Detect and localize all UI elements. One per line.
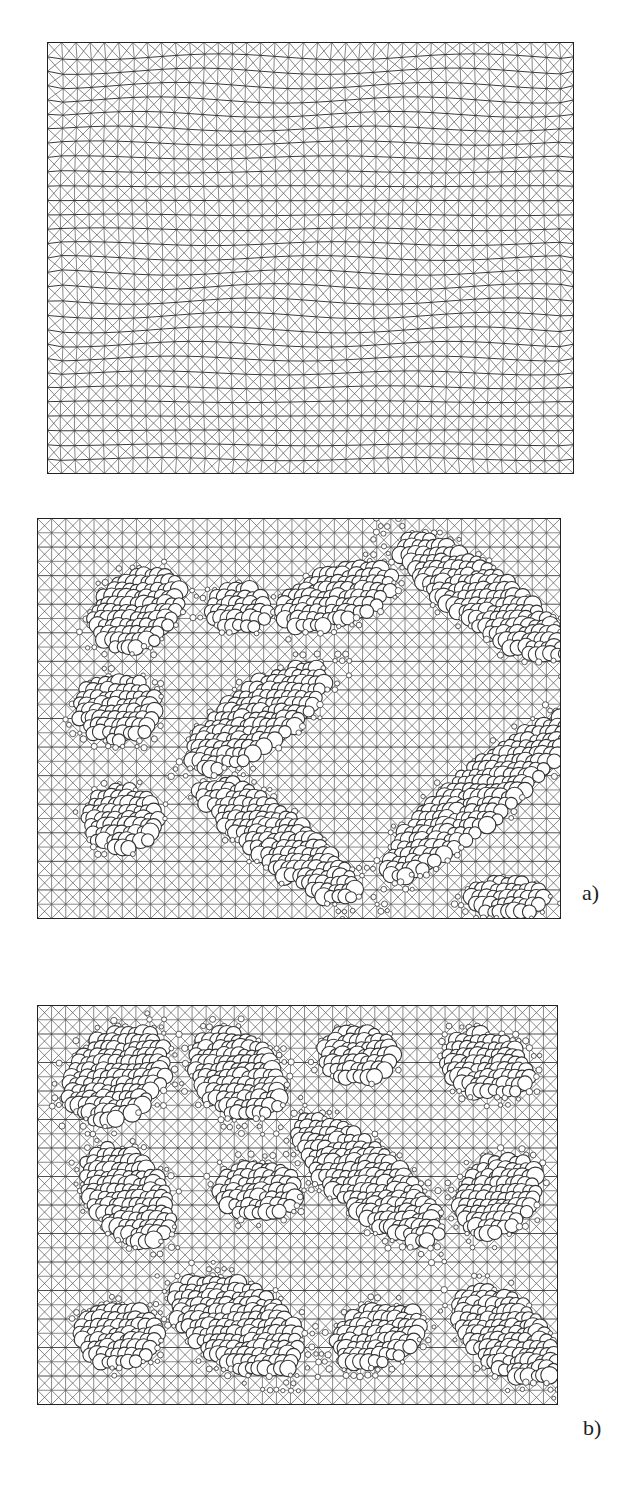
mesh-panel-a <box>37 518 561 919</box>
panel-label-b: b) <box>583 1415 601 1441</box>
mesh-panel-b <box>37 1005 558 1405</box>
mesh-panel-undeformed <box>47 42 574 474</box>
panel-label-a: a) <box>582 880 599 906</box>
